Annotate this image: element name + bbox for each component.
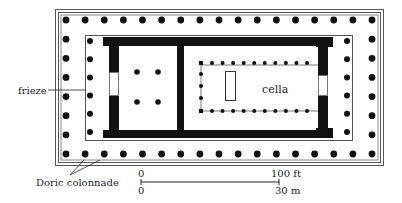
outer-column	[235, 17, 242, 24]
prostyle-column	[87, 129, 93, 135]
outer-column	[254, 151, 261, 158]
outer-column	[82, 17, 89, 24]
cella-column	[199, 72, 203, 76]
cella-column	[305, 61, 309, 65]
outer-column	[349, 17, 356, 24]
scale-top-start: 0	[138, 168, 144, 179]
cella-walls	[103, 37, 333, 138]
cella-column	[294, 61, 298, 65]
prostyle-column	[344, 129, 350, 135]
outer-column	[63, 93, 70, 100]
cella-column	[284, 109, 288, 113]
outer-column	[369, 112, 376, 119]
outer-column	[369, 36, 376, 43]
outer-column	[369, 151, 376, 158]
outer-column	[196, 17, 203, 24]
outer-column	[63, 55, 70, 62]
outer-column	[369, 131, 376, 138]
outer-column	[311, 151, 318, 158]
cella-inner-frame	[201, 65, 318, 111]
outer-column	[63, 36, 70, 43]
cella-column	[252, 61, 256, 65]
cella-corner-pier	[199, 109, 203, 113]
prostyle-column	[87, 56, 93, 62]
prostyle-column	[344, 56, 350, 62]
cella-column	[273, 61, 277, 65]
cella-column	[263, 109, 267, 113]
prostyle-column	[87, 93, 93, 99]
cella-column	[231, 109, 235, 113]
cella-column	[199, 84, 203, 88]
outer-column	[101, 151, 108, 158]
inner-platform	[86, 36, 353, 141]
cella-column	[210, 109, 214, 113]
cella-column	[284, 61, 288, 65]
cella-column	[242, 109, 246, 113]
cella-corner-pier	[199, 61, 203, 65]
outer-column	[369, 17, 376, 24]
outer-column	[349, 151, 356, 158]
prostyle-column	[87, 74, 93, 80]
outer-column	[139, 17, 146, 24]
outer-column	[177, 151, 184, 158]
cella-inner-columns	[199, 61, 309, 113]
outer-column	[63, 131, 70, 138]
outer-column	[63, 17, 70, 24]
prostyle-column	[344, 93, 350, 99]
outer-column	[216, 17, 223, 24]
outer-column	[120, 151, 127, 158]
cella-label: cella	[262, 83, 289, 96]
cella-column	[210, 61, 214, 65]
cella-column	[305, 109, 309, 113]
prostyle-column	[344, 38, 350, 44]
cella-column	[263, 61, 267, 65]
cella-column	[221, 109, 225, 113]
cella-column	[294, 109, 298, 113]
outer-column	[254, 17, 261, 24]
stylobate-steps	[56, 10, 384, 166]
outer-column	[369, 93, 376, 100]
doorways	[110, 73, 328, 96]
doric-colonnade-label: Doric colonnade	[36, 177, 119, 188]
outer-column	[369, 74, 376, 81]
outer-column	[158, 17, 165, 24]
outer-column	[63, 151, 70, 158]
statue-base	[226, 72, 236, 101]
prostyle-column	[87, 111, 93, 117]
outer-column	[196, 151, 203, 158]
temple-floor-plan: cella frieze Doric colonnade 0 100 ft 0 …	[0, 0, 402, 203]
outer-column	[82, 151, 89, 158]
outer-column	[273, 17, 280, 24]
outer-column	[63, 74, 70, 81]
cella-column	[221, 61, 225, 65]
outer-column	[330, 151, 337, 158]
scale-bottom-end: 30 m	[275, 185, 301, 196]
scale-top-end: 100 ft	[271, 168, 301, 179]
outer-column	[120, 17, 127, 24]
outer-column	[273, 151, 280, 158]
prostyle-column	[344, 74, 350, 80]
scale-bar: 0 100 ft 0 30 m	[138, 168, 301, 196]
outer-column	[101, 17, 108, 24]
outer-column	[177, 17, 184, 24]
outer-column	[235, 151, 242, 158]
cella-column	[242, 61, 246, 65]
cella-column	[252, 109, 256, 113]
back-room-columns	[134, 69, 161, 105]
outer-column	[369, 55, 376, 62]
outer-column	[216, 151, 223, 158]
prostyle-column	[344, 111, 350, 117]
outer-column	[139, 151, 146, 158]
outer-column	[292, 17, 299, 24]
outer-column	[330, 17, 337, 24]
outer-column	[311, 17, 318, 24]
scale-bottom-start: 0	[138, 185, 144, 196]
prostyle-columns	[87, 38, 350, 135]
outer-column	[292, 151, 299, 158]
cella-column	[273, 109, 277, 113]
prostyle-column	[87, 38, 93, 44]
cella-column	[199, 96, 203, 100]
outer-column	[63, 112, 70, 119]
frieze-label: frieze	[18, 85, 47, 96]
outer-column	[158, 151, 165, 158]
